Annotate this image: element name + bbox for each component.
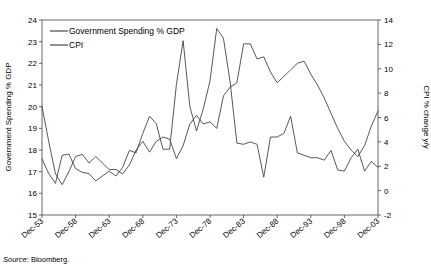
left-tick-label: 24 — [28, 16, 37, 25]
left-tick-label: 21 — [28, 81, 37, 90]
x-tick-label: Dec-88 — [255, 216, 281, 240]
x-tick-label: Dec-98 — [322, 216, 348, 240]
right-tick-label: 14 — [384, 16, 393, 25]
x-axis-ticks: Dec-53Dec-58Dec-63Dec-68Dec-73Dec-78Dec-… — [20, 215, 382, 240]
legend: Government Spending % GDP CPI — [50, 26, 185, 50]
left-tick-label: 22 — [28, 59, 37, 68]
right-tick-label: 4 — [384, 138, 389, 147]
legend-label-cpi: CPI — [69, 40, 83, 50]
x-tick-label: Dec-63 — [87, 216, 113, 240]
left-tick-label: 19 — [28, 124, 37, 133]
left-tick-label: 16 — [28, 189, 37, 198]
right-axis-title: CPI % change y/y — [422, 85, 431, 149]
right-tick-label: 6 — [384, 114, 389, 123]
chart-container: 15161718192021222324 -202468101214 Dec-5… — [0, 0, 431, 271]
x-tick-label: Dec-68 — [121, 216, 147, 240]
right-tick-label: 8 — [384, 89, 389, 98]
x-tick-label: Dec-73 — [154, 216, 180, 240]
x-tick-label: Dec-78 — [188, 216, 214, 240]
source-value: Bloomberg. — [29, 255, 69, 264]
legend-label-government-spending: Government Spending % GDP — [69, 26, 185, 36]
left-tick-label: 23 — [28, 38, 37, 47]
left-axis-title: Government Spending % GDP — [4, 63, 13, 172]
x-tick-label: Dec-58 — [53, 216, 79, 240]
right-tick-label: 0 — [384, 187, 389, 196]
x-tick-label: Dec-93 — [289, 216, 315, 240]
source-label: Source: — [3, 255, 29, 264]
x-tick-label: Dec-83 — [221, 216, 247, 240]
source-note: Source: Bloomberg. — [3, 255, 69, 264]
right-tick-label: -2 — [384, 211, 392, 220]
left-tick-label: 18 — [28, 146, 37, 155]
right-tick-label: 10 — [384, 65, 393, 74]
plot-frame — [42, 20, 378, 215]
left-tick-label: 20 — [28, 103, 37, 112]
right-tick-label: 12 — [384, 40, 393, 49]
chart-svg: 15161718192021222324 -202468101214 Dec-5… — [0, 0, 431, 271]
left-axis-ticks: 15161718192021222324 — [28, 16, 42, 220]
series-line-government-spending-gdp — [42, 44, 378, 185]
series-layer — [42, 29, 378, 185]
right-axis-ticks: -202468101214 — [378, 16, 393, 220]
left-tick-label: 17 — [28, 168, 37, 177]
x-tick-label: Dec-03 — [356, 216, 382, 240]
right-tick-label: 2 — [384, 162, 389, 171]
